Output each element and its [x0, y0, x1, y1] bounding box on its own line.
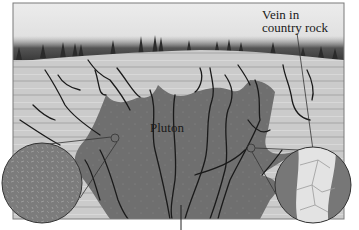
diagram-canvas: Vein in country rock Pluton [0, 0, 359, 230]
vein-label-line-2: country rock [262, 21, 328, 34]
pluton-label: Pluton [150, 121, 184, 134]
pluton-body [75, 80, 300, 219]
fine-grained-texture-magnifier [2, 143, 82, 223]
vein-in-country-rock-label: Vein in country rock [262, 8, 328, 34]
